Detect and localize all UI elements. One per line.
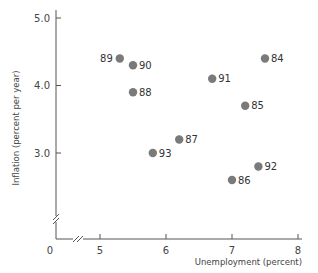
marker-dot — [208, 75, 216, 83]
data-point-89: 89 — [100, 53, 124, 64]
data-points: 84858687888990919293 — [100, 53, 284, 186]
point-label: 84 — [271, 53, 284, 64]
x-tick-label: 0 — [47, 245, 53, 256]
marker-dot — [175, 135, 183, 143]
marker-dot — [228, 176, 236, 184]
scatter-chart: 3.04.05.0 05678 84858687888990919293 Inf… — [0, 0, 318, 273]
data-point-92: 92 — [254, 161, 277, 172]
data-point-87: 87 — [175, 134, 198, 145]
data-point-84: 84 — [261, 53, 284, 64]
y-tick-label: 3.0 — [34, 148, 50, 159]
y-tick-label: 4.0 — [34, 80, 50, 91]
point-label: 90 — [139, 60, 152, 71]
point-label: 93 — [159, 148, 172, 159]
marker-dot — [116, 54, 124, 62]
x-tick-label: 8 — [295, 245, 301, 256]
marker-dot — [261, 54, 269, 62]
x-tick-label: 5 — [97, 245, 103, 256]
marker-dot — [129, 88, 137, 96]
x-tick-label: 7 — [229, 245, 235, 256]
data-point-88: 88 — [129, 87, 152, 98]
point-label: 86 — [238, 175, 251, 186]
data-point-91: 91 — [208, 73, 231, 84]
point-label: 89 — [100, 53, 113, 64]
x-axis-break — [73, 235, 83, 243]
data-point-86: 86 — [228, 175, 251, 186]
point-label: 88 — [139, 87, 152, 98]
point-label: 87 — [185, 134, 198, 145]
marker-dot — [241, 102, 249, 110]
data-point-93: 93 — [149, 148, 172, 159]
data-point-90: 90 — [129, 60, 152, 71]
marker-dot — [129, 61, 137, 69]
x-tick-label: 6 — [163, 245, 169, 256]
data-point-85: 85 — [241, 100, 264, 111]
marker-dot — [149, 149, 157, 157]
y-tick-label: 5.0 — [34, 13, 50, 24]
y-axis-title: Inflation (percent per year) — [11, 70, 21, 185]
x-axis-title: Unemployment (percent) — [195, 257, 302, 267]
x-ticks: 05678 — [47, 234, 301, 256]
point-label: 91 — [218, 73, 231, 84]
point-label: 92 — [264, 161, 277, 172]
y-ticks: 3.04.05.0 — [34, 13, 61, 159]
marker-dot — [254, 162, 262, 170]
point-label: 85 — [251, 100, 264, 111]
